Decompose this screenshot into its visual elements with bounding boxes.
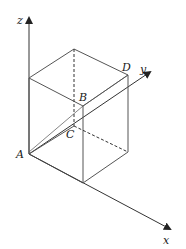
cube-diagram: z y x A B C D — [0, 0, 186, 249]
cube-hidden-edge-bottom — [74, 126, 128, 152]
point-d-label: D — [121, 61, 131, 74]
point-c-label: C — [66, 128, 75, 141]
point-b-label: B — [78, 91, 87, 104]
cube-edge-bottom-right — [83, 152, 128, 183]
cube-edge-bottom-front — [29, 154, 83, 183]
diagonal-a-b — [29, 106, 83, 152]
y-axis-label: y — [139, 63, 147, 76]
z-axis-label: z — [16, 14, 23, 27]
y-axis — [29, 72, 150, 154]
x-axis-label: x — [163, 234, 170, 247]
point-a-label: A — [15, 148, 24, 161]
